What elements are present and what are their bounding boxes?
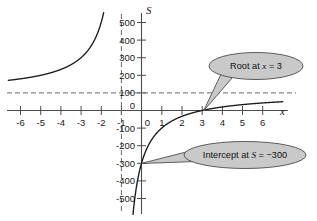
x-tick-label-2: 2 [179, 117, 184, 128]
intercept-callout-label: Intercept at S = −300 [203, 150, 287, 160]
y-tick-label-400: 400 [119, 35, 135, 46]
x-tick-label--4: -4 [57, 117, 65, 128]
chart-figure: -6 -5 -4 -3 -2 -1 0 1 2 3 4 5 6 500 400 … [0, 0, 317, 221]
root-callout-value: 3 [277, 61, 282, 71]
x-tick-label-6: 6 [260, 117, 265, 128]
x-tick-label--5: -5 [36, 117, 44, 128]
intercept-callout-equals: = [256, 150, 266, 160]
y-tick-label-100: 100 [119, 87, 135, 98]
y-tick-label-200: 200 [119, 70, 135, 81]
y-tick-label--200: -200 [116, 140, 135, 151]
y-tick-label--300: -300 [116, 158, 135, 169]
root-callout-prefix: Root at [230, 61, 262, 71]
x-tick-label-0: 0 [145, 117, 150, 128]
root-callout-label: Root at x = 3 [230, 61, 282, 71]
intercept-callout-prefix: Intercept at [203, 150, 252, 160]
x-axis-label: x [279, 105, 285, 117]
y-tick-label-500: 500 [119, 17, 135, 28]
x-tick-label-4: 4 [220, 117, 225, 128]
x-tick-label-5: 5 [240, 117, 245, 128]
rational-function-plot: -6 -5 -4 -3 -2 -1 0 1 2 3 4 5 6 500 400 … [0, 0, 317, 221]
y-tick-label-300: 300 [119, 52, 135, 63]
x-tick-label--3: -3 [77, 117, 85, 128]
y-tick-label--100: -100 [116, 123, 135, 134]
x-tick-label--6: -6 [16, 117, 24, 128]
x-tick-label--2: -2 [97, 117, 105, 128]
y-tick-label--400: -400 [116, 175, 135, 186]
x-tick-label-3: 3 [200, 117, 205, 128]
y-tick-label-0: 0 [130, 100, 135, 111]
intercept-callout-value: −300 [266, 150, 287, 160]
root-callout-equals: = [266, 61, 276, 71]
y-tick-label--500: -500 [116, 193, 135, 204]
y-axis-label: S [146, 4, 152, 16]
